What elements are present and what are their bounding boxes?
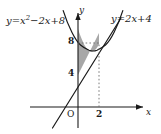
parabola-equation-prefix: y=x bbox=[6, 15, 26, 26]
x-tick-label-2: 2 bbox=[96, 110, 102, 119]
y-tick-label-8: 8 bbox=[68, 37, 74, 46]
x-axis-label: x bbox=[146, 108, 151, 117]
line-equation-label: y=2x+4 bbox=[111, 14, 152, 24]
line-curve-2x-plus-4 bbox=[53, 18, 122, 128]
parabola-equation-suffix: −2x+8 bbox=[30, 15, 65, 26]
shaded-region-between-curves bbox=[78, 29, 99, 75]
parabola-equation-label: y=x2−2x+8 bbox=[6, 16, 65, 26]
y-tick-label-4: 4 bbox=[68, 69, 74, 78]
math-figure: y=x2−2x+8 y=2x+4 y x 8 4 2 O bbox=[0, 0, 161, 134]
origin-label: O bbox=[67, 110, 74, 119]
x-axis-arrowhead bbox=[136, 104, 143, 109]
y-axis-label: y bbox=[79, 6, 84, 15]
